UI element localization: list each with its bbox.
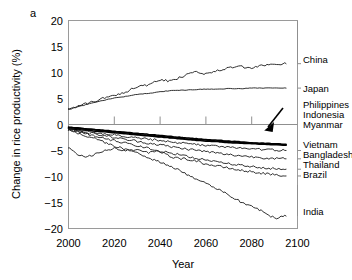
series-label-india: India xyxy=(303,206,324,217)
zero-axis-line xyxy=(69,117,298,125)
series-label-china: China xyxy=(303,54,329,65)
panel-letter: a xyxy=(30,7,37,19)
y-axis-title: Change in rice productivity (%) xyxy=(10,49,22,199)
y-tick-0: 0 xyxy=(57,119,63,131)
x-axis-title: Year xyxy=(172,258,195,270)
y-axis-tick-labels: 20151050−5−10−15−20 xyxy=(44,15,63,235)
y-tick--5: −5 xyxy=(50,145,63,157)
y-tick-10: 10 xyxy=(51,67,63,79)
x-tick-2040: 2040 xyxy=(148,237,172,249)
y-tick-20: 20 xyxy=(51,15,63,27)
y-tick--15: −15 xyxy=(44,197,63,209)
y-tick-5: 5 xyxy=(57,93,63,105)
label-leader-lines xyxy=(298,21,302,216)
x-tick-2020: 2020 xyxy=(102,237,126,249)
series-label-japan: Japan xyxy=(303,83,329,94)
series-label-myanmar: Myanmar xyxy=(303,119,343,130)
series-label-brazil: Brazil xyxy=(303,169,327,180)
data-curves xyxy=(69,63,287,219)
chart-svg: a 20151050−5−10−15−20 200020202040206020… xyxy=(0,0,352,280)
curve-china xyxy=(69,63,287,110)
annotation-arrow xyxy=(266,108,283,131)
x-axis-tick-labels: 200020202040206020802100 xyxy=(56,237,309,249)
y-tick--20: −20 xyxy=(44,223,63,235)
x-tick-2060: 2060 xyxy=(194,237,218,249)
curve-brazil xyxy=(69,148,287,177)
y-tick--10: −10 xyxy=(44,171,63,183)
curve-thailand xyxy=(69,129,287,170)
x-tick-2100: 2100 xyxy=(285,237,309,249)
y-tick-15: 15 xyxy=(51,41,63,53)
x-tick-2080: 2080 xyxy=(239,237,263,249)
figure-panel-a: a 20151050−5−10−15−20 200020202040206020… xyxy=(0,0,352,280)
x-tick-2000: 2000 xyxy=(56,237,80,249)
